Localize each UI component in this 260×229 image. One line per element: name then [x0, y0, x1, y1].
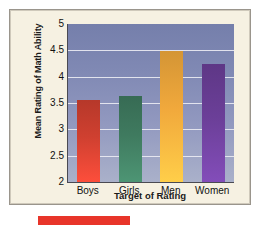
bar-girls[interactable] [119, 96, 142, 182]
y-tick-label: 2 [40, 177, 64, 187]
bars-layer [68, 24, 234, 182]
bar-chart: Mean Rating of Math Ability 5 4.5 4 3.5 … [10, 10, 252, 206]
x-axis-title: Target of Rating [67, 190, 233, 201]
y-tick-label: 2.5 [40, 151, 64, 161]
y-tick-label: 4 [40, 72, 64, 82]
bar-boys[interactable] [77, 100, 100, 182]
y-tick-label: 5 [40, 19, 64, 29]
y-tick-label: 4.5 [40, 45, 64, 55]
plot-area [67, 24, 234, 183]
figure-card: Mean Rating of Math Ability 5 4.5 4 3.5 … [9, 9, 251, 205]
bar-men[interactable] [160, 51, 183, 182]
y-tick-label: 3 [40, 124, 64, 134]
accent-bar [38, 216, 130, 225]
y-tick-label: 3.5 [40, 98, 64, 108]
bar-women[interactable] [202, 64, 225, 183]
y-axis-tick-labels: 5 4.5 4 3.5 3 2.5 2 [40, 24, 64, 182]
